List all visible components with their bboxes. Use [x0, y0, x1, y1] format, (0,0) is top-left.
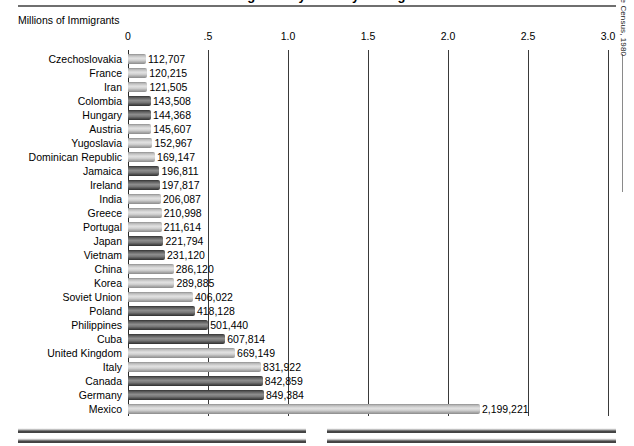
bar-wrapper	[128, 348, 235, 358]
bar-wrapper	[128, 404, 480, 414]
bar-value-label: 169,147	[155, 150, 195, 164]
bar-value-label: 849,384	[264, 388, 304, 402]
bar-category-label: United Kingdom	[0, 346, 122, 360]
bar-wrapper	[128, 166, 159, 176]
bar-row: Cuba607,814	[0, 332, 634, 346]
bar[interactable]	[128, 208, 162, 218]
bar[interactable]	[128, 362, 261, 372]
bar[interactable]	[128, 194, 161, 204]
bar-row: Yugoslavia152,967	[0, 136, 634, 150]
bar[interactable]	[128, 180, 160, 190]
bar-category-label: Poland	[0, 304, 122, 318]
bar-value-label: 196,811	[159, 164, 198, 178]
bar[interactable]	[128, 376, 263, 386]
bar-value-label: 2,199,221	[480, 402, 529, 416]
bar-category-label: Soviet Union	[0, 290, 122, 304]
bar-wrapper	[128, 250, 165, 260]
bar[interactable]	[128, 54, 146, 64]
bar[interactable]	[128, 222, 162, 232]
bar-row: Iran121,505	[0, 80, 634, 94]
bar-wrapper	[128, 334, 225, 344]
bar-row: Korea289,885	[0, 276, 634, 290]
bar-value-label: 221,794	[163, 234, 203, 248]
bar-row: United Kingdom669,149	[0, 346, 634, 360]
bar-value-label: 143,508	[151, 94, 191, 108]
bar[interactable]	[128, 82, 147, 92]
plot-area: Czechoslovakia112,707France120,215Iran12…	[0, 50, 634, 422]
decorative-band-right-lower	[327, 438, 616, 443]
bar-value-label: 144,368	[151, 108, 191, 122]
bar-value-label: 418,128	[195, 304, 235, 318]
source-note: Source: Bureau of the Census, 1980	[619, 0, 628, 56]
bar-row: Soviet Union406,022	[0, 290, 634, 304]
bar[interactable]	[128, 166, 159, 176]
bar[interactable]	[128, 110, 151, 120]
chart-title-clipped: Immigrants by Country of Origin	[0, 0, 634, 3]
bar[interactable]	[128, 404, 480, 414]
bar-wrapper	[128, 208, 162, 218]
bar-category-label: Japan	[0, 234, 122, 248]
bar-row: China286,120	[0, 262, 634, 276]
bar[interactable]	[128, 334, 225, 344]
bar[interactable]	[128, 124, 151, 134]
bar-wrapper	[128, 68, 147, 78]
bar[interactable]	[128, 320, 208, 330]
x-axis-tick-labels: 0.51.01.52.02.53.0	[0, 30, 634, 44]
bar-category-label: Hungary	[0, 108, 122, 122]
decorative-band-right-upper	[327, 428, 616, 433]
bar-category-label: Iran	[0, 80, 122, 94]
bar-wrapper	[128, 320, 208, 330]
bar[interactable]	[128, 236, 163, 246]
bar-row: Italy831,922	[0, 360, 634, 374]
x-tick-label-0: 0	[108, 30, 148, 42]
bar-row: Vietnam231,120	[0, 248, 634, 262]
bar-value-label: 831,922	[261, 360, 301, 374]
x-tick-label-1_5: 1.5	[348, 30, 388, 42]
bar[interactable]	[128, 96, 151, 106]
bar-category-label: Vietnam	[0, 248, 122, 262]
bar-row: Mexico2,199,221	[0, 402, 634, 416]
bar-category-label: Philippines	[0, 318, 122, 332]
bar-category-label: Austria	[0, 122, 122, 136]
bar-category-label: Canada	[0, 374, 122, 388]
bar[interactable]	[128, 348, 235, 358]
x-tick-label-2: 2.0	[428, 30, 468, 42]
bar[interactable]	[128, 292, 193, 302]
bar[interactable]	[128, 138, 152, 148]
bar-value-label: 112,707	[146, 52, 185, 66]
bar-wrapper	[128, 278, 174, 288]
bar[interactable]	[128, 68, 147, 78]
bar-wrapper	[128, 110, 151, 120]
bar-wrapper	[128, 390, 264, 400]
bar-value-label: 286,120	[174, 262, 214, 276]
bar[interactable]	[128, 306, 195, 316]
source-note-rule	[622, 54, 623, 192]
bar-value-label: 206,087	[161, 192, 201, 206]
bar-value-label: 210,998	[162, 206, 202, 220]
bar-category-label: Czechoslovakia	[0, 52, 122, 66]
decorative-band-left-lower	[18, 438, 306, 443]
bar-wrapper	[128, 124, 151, 134]
x-axis-title: Millions of Immigrants	[18, 14, 120, 26]
x-tick-label-1: 1.0	[268, 30, 308, 42]
bar[interactable]	[128, 278, 174, 288]
bar-value-label: 145,607	[151, 122, 191, 136]
bar-wrapper	[128, 292, 193, 302]
bar[interactable]	[128, 152, 155, 162]
bar-value-label: 406,022	[193, 290, 233, 304]
bar-row: Jamaica196,811	[0, 164, 634, 178]
bar[interactable]	[128, 264, 174, 274]
bar-wrapper	[128, 264, 174, 274]
bar-wrapper	[128, 376, 263, 386]
bar-category-label: Colombia	[0, 94, 122, 108]
bar-row: Dominican Republic169,147	[0, 150, 634, 164]
bar-row: Hungary144,368	[0, 108, 634, 122]
bar-wrapper	[128, 138, 152, 148]
bar[interactable]	[128, 390, 264, 400]
bar-wrapper	[128, 152, 155, 162]
bar-category-label: Cuba	[0, 332, 122, 346]
bar-value-label: 607,814	[225, 332, 265, 346]
bar[interactable]	[128, 250, 165, 260]
bar-category-label: Portugal	[0, 220, 122, 234]
bar-value-label: 842,859	[263, 374, 303, 388]
